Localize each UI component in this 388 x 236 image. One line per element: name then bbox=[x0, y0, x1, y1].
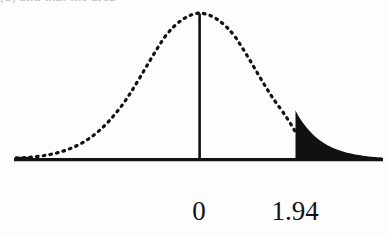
normal-distribution-figure: (a) and that the area 0 1.94 bbox=[0, 0, 388, 236]
shaded-tail-region bbox=[296, 111, 383, 160]
axis-label-critical-value: 1.94 bbox=[271, 196, 318, 226]
axis-label-row: 0 1.94 bbox=[0, 196, 388, 230]
axis-label-mean: 0 bbox=[192, 196, 206, 226]
